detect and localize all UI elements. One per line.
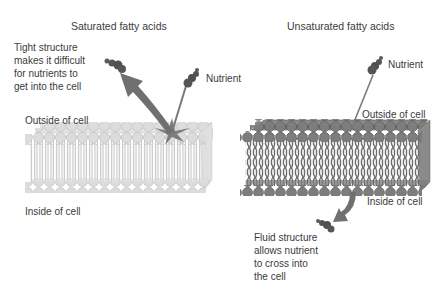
nutrient-left-incoming-icon <box>184 68 200 88</box>
saturated-nutrient-label: Nutrient <box>206 72 241 85</box>
saturated-membrane <box>25 122 213 193</box>
nutrient-right-incoming-icon <box>368 56 384 75</box>
nutrient-right-entered-icon <box>316 219 335 233</box>
entry-arrow <box>333 192 356 222</box>
saturated-title: Saturated fatty acids <box>71 20 167 32</box>
saturated-annotation: Tight structure makes it difficult for n… <box>14 41 85 93</box>
nutrient-left-deflected-icon <box>105 59 127 74</box>
unsaturated-nutrient-label: Nutrient <box>388 58 423 71</box>
unsaturated-inside-label: Inside of cell <box>367 195 423 208</box>
saturated-inside-label: Inside of cell <box>25 205 81 218</box>
unsaturated-title: Unsaturated fatty acids <box>287 20 394 32</box>
saturated-outside-label: Outside of cell <box>25 114 88 127</box>
unsaturated-outside-label: Outside of cell <box>362 108 425 121</box>
unsaturated-membrane <box>240 119 430 196</box>
unsaturated-annotation: Fluid structure allows nutrient to cross… <box>254 231 318 283</box>
